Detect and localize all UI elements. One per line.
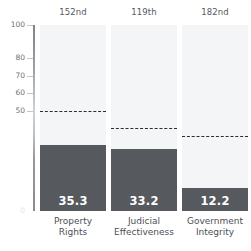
y-tick-70 xyxy=(27,76,33,77)
y-tick-label-0: 0 xyxy=(0,207,25,215)
reference-line-judicial-effectiveness xyxy=(111,128,177,129)
rank-label-judicial-effectiveness: 119th xyxy=(111,6,177,18)
category-label-judicial-effectiveness-line2: Effectiveness xyxy=(108,227,180,238)
reference-line-government-integrity xyxy=(182,136,248,137)
column-track-government-integrity xyxy=(182,25,248,211)
bar-government-integrity: 12.2 xyxy=(182,188,248,211)
reference-line-property-rights xyxy=(40,111,106,112)
category-label-government-integrity: Government Integrity xyxy=(179,216,251,238)
y-tick-60 xyxy=(27,93,33,94)
category-label-property-rights-line1: Property xyxy=(37,216,109,227)
y-tick-label-70: 70 xyxy=(0,72,25,80)
plot-area: 35.3 33.2 12.2 xyxy=(40,25,248,211)
y-tick-80 xyxy=(27,58,33,59)
category-label-row: Property Rights Judicial Effectiveness G… xyxy=(40,216,248,246)
bar-property-rights: 35.3 xyxy=(40,145,106,211)
y-tick-label-80: 80 xyxy=(0,54,25,62)
bar-value-judicial-effectiveness: 33.2 xyxy=(111,194,177,208)
bar-value-property-rights: 35.3 xyxy=(40,194,106,208)
category-label-government-integrity-line1: Government xyxy=(179,216,251,227)
category-label-judicial-effectiveness-line1: Judicial xyxy=(108,216,180,227)
bar-chart: 152nd 119th 182nd 100 80 70 60 50 0 35.3… xyxy=(0,0,251,251)
bar-judicial-effectiveness: 33.2 xyxy=(111,149,177,211)
category-label-property-rights-line2: Rights xyxy=(37,227,109,238)
rank-label-government-integrity: 182nd xyxy=(182,6,248,18)
rank-label-property-rights: 152nd xyxy=(40,6,106,18)
y-axis-spine xyxy=(33,25,35,211)
bar-value-government-integrity: 12.2 xyxy=(182,194,248,208)
y-tick-50 xyxy=(27,111,33,112)
rank-label-row: 152nd 119th 182nd xyxy=(40,6,248,20)
y-tick-100 xyxy=(27,25,33,26)
y-tick-label-50: 50 xyxy=(0,107,25,115)
category-label-government-integrity-line2: Integrity xyxy=(179,227,251,238)
y-tick-label-60: 60 xyxy=(0,89,25,97)
category-label-property-rights: Property Rights xyxy=(37,216,109,238)
y-tick-label-100: 100 xyxy=(0,21,25,29)
category-label-judicial-effectiveness: Judicial Effectiveness xyxy=(108,216,180,238)
